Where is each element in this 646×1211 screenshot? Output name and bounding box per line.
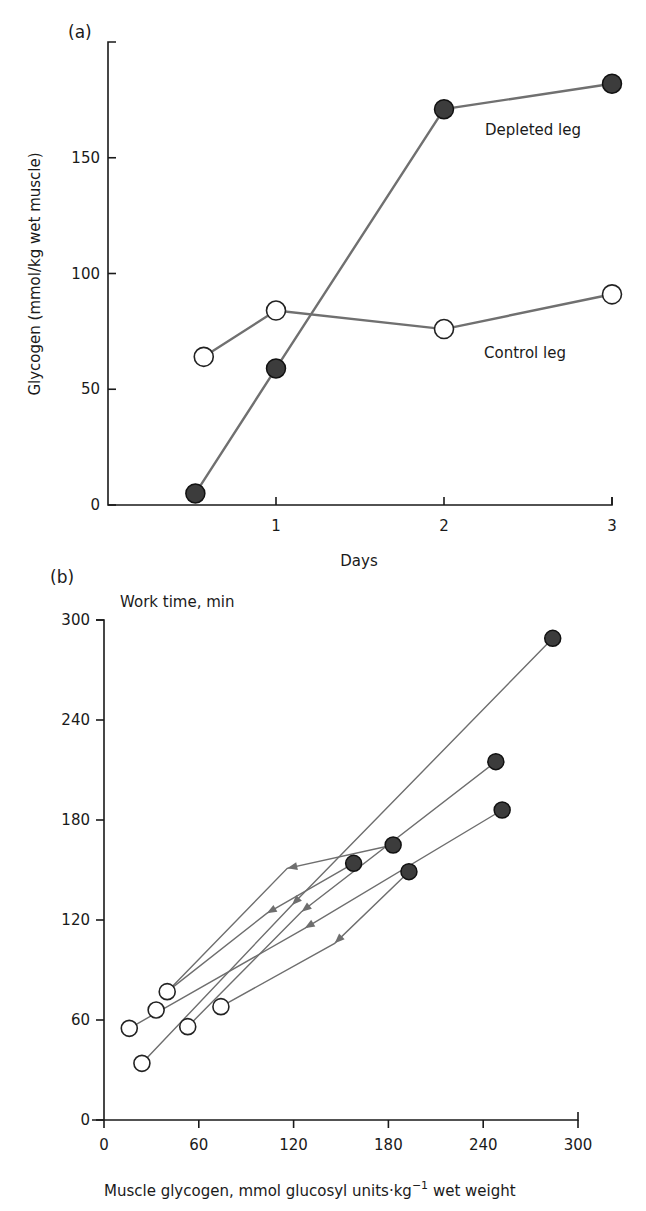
filled-circle-marker xyxy=(435,100,454,119)
panel-b-y-axis-title: Work time, min xyxy=(120,593,234,611)
x-tick-label: 0 xyxy=(99,1136,109,1154)
arrowhead-icon xyxy=(305,920,316,929)
trajectory-line xyxy=(188,762,496,1027)
panel-b-data-points xyxy=(121,630,560,1071)
open-circle-marker xyxy=(148,1002,164,1018)
panel-b-x-axis-title: Muscle glycogen, mmol glucosyl units·kg−… xyxy=(104,1179,516,1200)
trajectory-line xyxy=(129,810,502,1028)
open-circle-marker xyxy=(180,1019,196,1035)
arrowhead-icon xyxy=(287,862,298,870)
panel-b-work-time-vs-glycogen: (b) Work time, min 060120180240300060120… xyxy=(50,567,592,1200)
arrowhead-icon xyxy=(302,902,312,911)
panel-b-label: (b) xyxy=(50,567,74,587)
x-tick-label: 300 xyxy=(564,1136,593,1154)
x-tick-label: 2 xyxy=(439,517,449,535)
open-circle-marker xyxy=(603,285,622,304)
open-circle-marker xyxy=(213,999,229,1015)
y-tick-label: 0 xyxy=(90,496,100,514)
panel-a-glycogen-vs-days: (a) 050100150123 Depleted leg Control le… xyxy=(26,22,622,570)
x-tick-label: 240 xyxy=(469,1136,498,1154)
depleted-leg-label: Depleted leg xyxy=(485,121,581,139)
filled-circle-marker xyxy=(494,802,510,818)
control-leg-label: Control leg xyxy=(484,344,566,362)
x-tick-label: 60 xyxy=(189,1136,208,1154)
y-tick-label: 240 xyxy=(61,711,90,729)
trajectory-line xyxy=(221,872,409,1007)
panel-b-axes: 060120180240300060120180240300 xyxy=(61,611,592,1154)
y-tick-label: 50 xyxy=(81,380,100,398)
panel-a-y-axis-title: Glycogen (mmol/kg wet muscle) xyxy=(26,152,44,395)
open-circle-marker xyxy=(435,320,454,339)
x-tick-label: 120 xyxy=(279,1136,308,1154)
filled-circle-marker xyxy=(401,864,417,880)
x-tick-label: 1 xyxy=(271,517,281,535)
filled-circle-marker xyxy=(603,74,622,93)
panel-b-arrow-paths xyxy=(129,638,552,1063)
figure-canvas: (a) 050100150123 Depleted leg Control le… xyxy=(0,0,646,1211)
x-axis-line xyxy=(92,1112,578,1120)
panel-a-label: (a) xyxy=(68,22,92,42)
x-tick-label: 3 xyxy=(607,517,617,535)
open-circle-marker xyxy=(267,301,286,320)
series-line-depleted xyxy=(195,84,612,494)
y-axis-line xyxy=(96,620,104,1120)
axis-line xyxy=(108,42,612,505)
trajectory-line xyxy=(167,863,353,991)
y-tick-label: 100 xyxy=(71,265,100,283)
filled-circle-marker xyxy=(267,359,286,378)
open-circle-marker xyxy=(121,1020,137,1036)
panel-a-series-lines xyxy=(195,84,612,494)
y-tick-label: 120 xyxy=(61,911,90,929)
y-tick-label: 60 xyxy=(71,1011,90,1029)
filled-circle-marker xyxy=(186,484,205,503)
x-tick-label: 180 xyxy=(374,1136,403,1154)
y-tick-label: 0 xyxy=(80,1111,90,1129)
open-circle-marker xyxy=(194,347,213,366)
y-tick-label: 180 xyxy=(61,811,90,829)
panel-a-axes: 050100150123 xyxy=(71,42,616,535)
x-title-main: Muscle glycogen, mmol glucosyl units·kg xyxy=(104,1182,412,1200)
filled-circle-marker xyxy=(385,837,401,853)
filled-circle-marker xyxy=(346,855,362,871)
x-title-tail: wet weight xyxy=(428,1182,516,1200)
trajectory-line xyxy=(142,638,553,1063)
open-circle-marker xyxy=(134,1055,150,1071)
filled-circle-marker xyxy=(545,630,561,646)
panel-a-x-axis-title: Days xyxy=(340,552,378,570)
arrowhead-icon xyxy=(267,905,278,913)
filled-circle-marker xyxy=(488,754,504,770)
y-tick-label: 150 xyxy=(71,149,100,167)
y-tick-label: 300 xyxy=(61,611,90,629)
x-title-superscript: −1 xyxy=(412,1179,428,1192)
open-circle-marker xyxy=(159,984,175,1000)
